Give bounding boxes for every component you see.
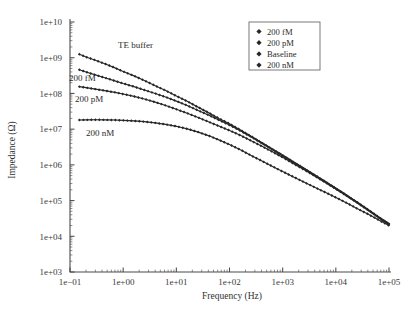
data-point-marker — [148, 99, 151, 102]
data-point-marker — [154, 121, 157, 124]
x-tick-label: 1e+02 — [218, 277, 241, 287]
x-tick-label: 1e+04 — [325, 277, 348, 287]
data-point-marker — [158, 93, 161, 96]
series-annotation: 200 nM — [86, 128, 114, 138]
legend-label-200-nm: 200 nM — [267, 60, 294, 70]
axis-tick-marks — [70, 22, 389, 272]
y-tick-label: 1e+06 — [39, 160, 62, 170]
data-point-marker — [150, 91, 153, 94]
data-point-marker — [130, 119, 133, 122]
data-point-marker — [154, 92, 157, 95]
data-point-marker — [112, 79, 115, 82]
data-point-marker — [101, 76, 104, 79]
data-point-marker — [98, 88, 101, 91]
data-point-marker — [147, 90, 150, 93]
data-point-marker — [108, 78, 111, 81]
data-point-marker — [166, 96, 169, 99]
data-point-marker — [162, 123, 165, 126]
data-point-marker — [189, 128, 192, 131]
data-point-marker — [82, 118, 85, 121]
data-point-marker — [164, 104, 167, 107]
data-point-marker — [201, 132, 204, 135]
data-point-marker — [128, 84, 131, 87]
data-point-marker — [117, 92, 120, 95]
data-point-marker — [82, 86, 85, 89]
data-point-marker — [90, 118, 93, 121]
data-point-marker — [146, 121, 149, 124]
data-point-marker — [78, 68, 81, 71]
data-point-marker — [137, 96, 140, 99]
series-annotation: TE buffer — [118, 40, 153, 50]
data-point-marker — [97, 74, 100, 77]
data-point-marker — [142, 120, 145, 123]
data-point-marker — [105, 77, 108, 80]
data-point-marker — [169, 98, 172, 101]
data-point-marker — [78, 85, 81, 88]
data-point-marker — [100, 61, 103, 64]
data-point-marker — [121, 93, 124, 96]
data-point-marker — [177, 125, 180, 128]
legend-label-200-pm: 200 pM — [267, 38, 294, 48]
data-point-marker — [150, 121, 153, 124]
data-point-marker — [175, 108, 178, 111]
data-point-markers — [78, 53, 390, 227]
y-tick-label: 1e+09 — [39, 53, 62, 63]
data-point-marker — [166, 123, 169, 126]
legend-label-200-fm: 200 fM — [267, 27, 293, 37]
series-annotation: 200 pM — [75, 94, 103, 104]
data-point-marker — [126, 119, 129, 122]
y-axis-tick-labels: 1e+031e+041e+051e+061e+071e+081e+091e+10 — [39, 17, 62, 277]
data-point-marker — [114, 119, 117, 122]
data-point-marker — [145, 98, 148, 101]
x-axis-tick-labels: 1e−011e+001e+011e+021e+031e+041e+05 — [59, 277, 401, 287]
y-tick-label: 1e+10 — [39, 17, 62, 27]
data-point-marker — [138, 120, 141, 123]
data-point-marker — [131, 85, 134, 88]
data-point-marker — [158, 122, 161, 125]
data-point-marker — [160, 103, 163, 106]
data-point-marker — [125, 93, 128, 96]
data-point-marker — [173, 99, 176, 102]
series-line-200-nm — [79, 120, 389, 226]
data-point-marker — [204, 133, 207, 136]
x-tick-label: 1e−01 — [59, 277, 82, 287]
data-point-marker — [120, 81, 123, 84]
x-tick-label: 1e+03 — [271, 277, 294, 287]
data-point-marker — [179, 109, 182, 112]
data-point-marker — [85, 56, 88, 59]
data-point-marker — [135, 86, 138, 89]
data-point-marker — [197, 131, 200, 134]
data-point-marker — [141, 97, 144, 100]
data-point-marker — [78, 119, 81, 122]
data-point-marker — [181, 126, 184, 129]
data-point-marker — [124, 83, 127, 86]
data-point-marker — [90, 87, 93, 90]
data-point-marker — [113, 91, 116, 94]
data-point-marker — [156, 101, 159, 104]
chart-canvas: 1e−011e+001e+011e+021e+031e+041e+05 1e+0… — [0, 0, 415, 314]
series-line-baseline — [79, 54, 389, 224]
data-point-marker — [162, 95, 165, 98]
series-line-200-pm — [79, 87, 389, 224]
data-point-marker — [171, 107, 174, 110]
data-point-marker — [133, 95, 136, 98]
data-point-marker — [94, 118, 97, 121]
data-point-marker — [185, 127, 188, 130]
x-tick-label: 1e+00 — [112, 277, 135, 287]
data-point-marker — [170, 124, 173, 127]
data-point-marker — [102, 89, 105, 92]
data-point-marker — [129, 94, 132, 97]
data-point-marker — [110, 90, 113, 93]
data-point-marker — [110, 119, 113, 122]
y-tick-label: 1e+07 — [39, 124, 62, 134]
data-point-marker — [122, 119, 125, 122]
data-point-marker — [102, 118, 105, 121]
data-point-marker — [98, 118, 101, 121]
x-axis-title: Frequency (Hz) — [202, 291, 262, 302]
data-point-marker — [106, 90, 109, 93]
data-point-marker — [86, 86, 89, 89]
data-point-marker — [139, 87, 142, 90]
y-tick-label: 1e+04 — [39, 232, 62, 242]
data-point-marker — [106, 118, 109, 121]
data-point-marker — [143, 89, 146, 92]
